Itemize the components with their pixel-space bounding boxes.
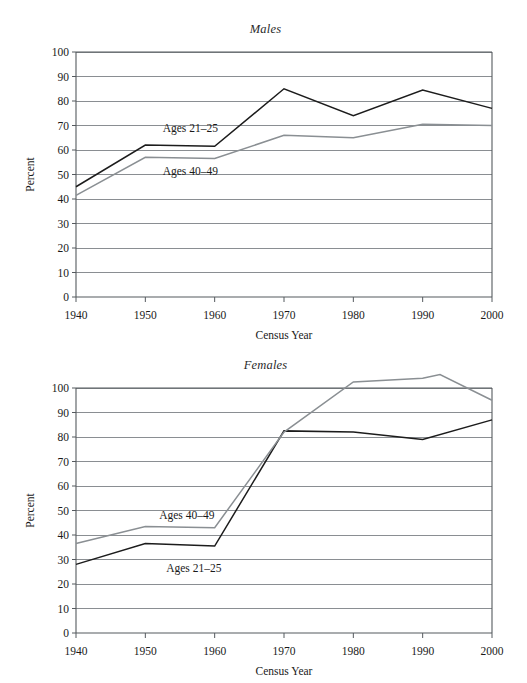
series-annotation: Ages 21–25 [163,122,219,135]
ytick-label: 40 [58,529,70,541]
y-axis-label: Percent [24,492,36,527]
ytick-label: 70 [58,120,70,132]
xtick-label: 1970 [273,645,296,657]
ytick-label: 80 [58,95,70,107]
xtick-label: 1990 [411,645,434,657]
series-annotation: Ages 40–49 [163,165,219,178]
ytick-label: 100 [52,46,70,58]
series-line-ages-40-49 [76,375,492,544]
x-axis-label: Census Year [256,665,313,677]
xtick-label: 1940 [65,309,88,321]
ytick-label: 60 [58,144,70,156]
ytick-label: 20 [58,242,70,254]
ytick-label: 0 [63,291,69,303]
ytick-label: 90 [58,407,70,419]
xtick-label: 1950 [134,309,157,321]
xtick-label: 1980 [342,645,365,657]
xtick-label: 1950 [134,645,157,657]
plot-area-males: 0102030405060708090100194019501960197019… [0,0,527,348]
xtick-label: 1960 [203,309,226,321]
ytick-label: 90 [58,71,70,83]
series-line-ages-21-25 [76,89,492,187]
ytick-label: 50 [58,505,70,517]
ytick-label: 20 [58,578,70,590]
ytick-label: 60 [58,480,70,492]
plot-svg-males: 0102030405060708090100194019501960197019… [0,0,527,348]
xtick-label: 1980 [342,309,365,321]
ytick-label: 10 [58,267,70,279]
series-annotation: Ages 21–25 [166,562,222,575]
xtick-label: 1970 [273,309,296,321]
series-line-ages-21-25 [76,420,492,565]
y-axis-label: Percent [24,156,36,191]
ytick-label: 40 [58,193,70,205]
series-annotation: Ages 40–49 [159,509,215,522]
ytick-label: 50 [58,169,70,181]
xtick-label: 1960 [203,645,226,657]
series-line-ages-40-49 [76,124,492,195]
ytick-label: 70 [58,456,70,468]
ytick-label: 10 [58,603,70,615]
chart-females: Females 01020304050607080901001940195019… [0,336,527,683]
xtick-label: 2000 [481,645,504,657]
ytick-label: 30 [58,554,70,566]
ytick-label: 0 [63,627,69,639]
xtick-label: 2000 [481,309,504,321]
chart-males: Males 0102030405060708090100194019501960… [0,0,527,348]
xtick-label: 1940 [65,645,88,657]
plot-area-females: 0102030405060708090100194019501960197019… [0,336,527,683]
figure-page: Males 0102030405060708090100194019501960… [0,0,527,683]
ytick-label: 100 [52,382,70,394]
plot-svg-females: 0102030405060708090100194019501960197019… [0,336,527,683]
ytick-label: 30 [58,218,70,230]
xtick-label: 1990 [411,309,434,321]
ytick-label: 80 [58,431,70,443]
